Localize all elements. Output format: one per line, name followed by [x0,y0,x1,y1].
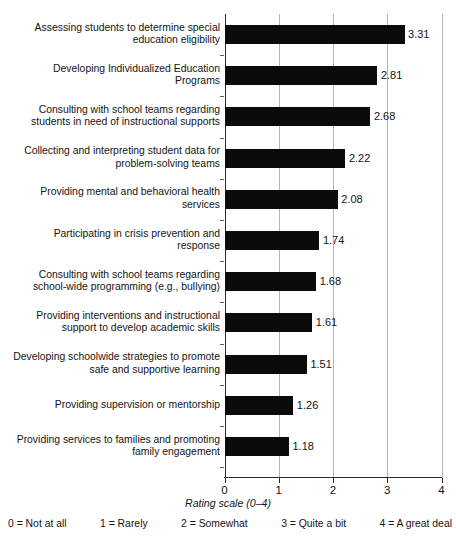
bar-row: Developing Individualized Education Prog… [0,55,456,96]
bar [225,355,307,374]
bar-row: Consulting with school teams regarding s… [0,261,456,302]
scale-legend-item-4: 4 = A great deal [379,518,452,529]
bar-value-label: 2.22 [349,150,370,167]
y-tick-mark [220,467,224,468]
bar [225,437,289,456]
category-label: Developing schoolwide strategies to prom… [0,352,220,377]
bar-value-label: 1.26 [297,397,318,414]
bar [225,272,316,291]
bar-row: Participating in crisis prevention and r… [0,220,456,261]
scale-legend-item-2: 2 = Somewhat [181,518,248,529]
bar-row: Providing supervision or mentorship1.26 [0,385,456,426]
bar [225,66,377,85]
bar-value-label: 2.08 [341,191,362,208]
category-label: Developing Individualized Education Prog… [0,63,220,88]
bar-row: Consulting with school teams regarding s… [0,96,456,137]
bar [225,149,345,168]
x-tick-mark-2 [333,478,334,483]
horizontal-bar-chart: Assessing students to determine special … [0,0,456,542]
bar-value-label: 1.74 [323,232,344,249]
bar [225,25,405,44]
scale-legend-item-1: 1 = Rarely [100,518,148,529]
category-label: Participating in crisis prevention and r… [0,228,220,253]
bar-row: Developing schoolwide strategies to prom… [0,344,456,385]
category-label: Providing supervision or mentorship [0,399,220,412]
category-label: Providing interventions and instructiona… [0,310,220,335]
bar-value-label: 1.51 [310,356,331,373]
bar-row: Providing mental and behavioral health s… [0,179,456,220]
scale-legend-item-3: 3 = Quite a bit [281,518,346,529]
bar-value-label: 2.81 [381,67,402,84]
x-tick-mark-3 [387,478,388,483]
category-label: Assessing students to determine special … [0,22,220,47]
bar [225,313,312,332]
x-axis-title: Rating scale (0–4) [0,497,456,509]
bar-row: Assessing students to determine special … [0,14,456,55]
bar-value-label: 2.68 [374,108,395,125]
bar [225,107,370,126]
x-tick-mark-4 [442,478,443,483]
category-label: Consulting with school teams regarding s… [0,269,220,294]
x-tick-label-3: 3 [377,484,397,496]
x-tick-mark-0 [225,478,226,483]
x-tick-label-4: 4 [432,484,452,496]
scale-legend-item-0: 0 = Not at all [8,518,67,529]
x-tick-label-1: 1 [269,484,289,496]
category-label: Providing mental and behavioral health s… [0,187,220,212]
bar-value-label: 3.31 [408,26,429,43]
x-tick-mark-1 [279,478,280,483]
bar-row: Providing interventions and instructiona… [0,302,456,343]
category-label: Providing services to families and promo… [0,434,220,459]
rating-scale-legend: 0 = Not at all1 = Rarely2 = Somewhat3 = … [8,518,452,529]
x-tick-label-0: 0 [215,484,235,496]
bar [225,190,338,209]
x-tick-label-2: 2 [323,484,343,496]
bar-value-label: 1.68 [320,273,341,290]
bar-row: Providing services to families and promo… [0,426,456,467]
bar-value-label: 1.61 [316,314,337,331]
category-label: Collecting and interpreting student data… [0,146,220,171]
bar [225,231,319,250]
bar [225,396,293,415]
bar-value-label: 1.18 [293,438,314,455]
category-label: Consulting with school teams regarding s… [0,104,220,129]
plot-area: Assessing students to determine special … [0,0,456,542]
bar-row: Collecting and interpreting student data… [0,138,456,179]
